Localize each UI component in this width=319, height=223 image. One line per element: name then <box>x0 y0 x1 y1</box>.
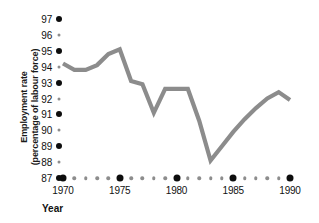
y-tick-dot <box>58 161 61 164</box>
x-tick-label: 1980 <box>166 185 187 196</box>
x-tick-dot <box>266 176 270 180</box>
y-tick-dot <box>56 143 62 149</box>
x-tick-label: 1975 <box>109 185 130 196</box>
x-tick-dot <box>129 176 133 180</box>
y-tick-dot <box>58 65 61 68</box>
x-axis-title: Year <box>42 203 63 214</box>
y-tick-label: 95 <box>32 45 52 56</box>
y-tick-dot <box>58 97 61 100</box>
x-tick-dot <box>173 175 180 182</box>
y-tick-label: 93 <box>32 77 52 88</box>
y-axis-title: Employment rate (percentage of labour fo… <box>0 0 30 223</box>
y-tick-label: 87 <box>32 173 52 184</box>
y-tick-label: 88 <box>32 157 52 168</box>
x-tick-dot <box>60 175 67 182</box>
y-tick-dot <box>56 48 62 54</box>
x-tick-dot <box>95 176 99 180</box>
x-tick-label: 1970 <box>52 185 73 196</box>
x-tick-dot <box>107 176 111 180</box>
x-tick-dot <box>152 176 156 180</box>
y-tick-label: 90 <box>32 125 52 136</box>
y-tick-label: 96 <box>32 29 52 40</box>
y-tick-dot <box>56 111 62 117</box>
y-tick-label: 89 <box>32 141 52 152</box>
x-tick-label: 1985 <box>223 185 244 196</box>
x-tick-dot <box>277 176 281 180</box>
y-tick-label: 92 <box>32 93 52 104</box>
y-tick-label: 97 <box>32 14 52 25</box>
y-axis-title-line1: Employment rate <box>19 15 30 199</box>
y-tick-label: 91 <box>32 109 52 120</box>
y-tick-dot <box>58 129 61 132</box>
x-tick-dot <box>163 176 167 180</box>
x-tick-dot <box>220 176 224 180</box>
employment-rate-series <box>63 49 290 160</box>
y-tick-dot <box>56 16 62 22</box>
x-tick-dot <box>197 176 201 180</box>
x-tick-dot <box>254 176 258 180</box>
y-tick-dot <box>58 33 61 36</box>
x-tick-dot <box>209 176 213 180</box>
x-tick-dot <box>243 176 247 180</box>
x-tick-dot <box>116 175 123 182</box>
employment-rate-line-chart: Employment rate (percentage of labour fo… <box>0 0 319 223</box>
y-tick-dot <box>56 80 62 86</box>
y-axis-title-line2: (percentage of labour force) <box>30 15 41 199</box>
y-tick-label: 94 <box>32 61 52 72</box>
x-tick-dot <box>141 176 145 180</box>
x-tick-dot <box>84 176 88 180</box>
x-tick-dot <box>287 175 294 182</box>
x-tick-dot <box>230 175 237 182</box>
x-tick-dot <box>186 176 190 180</box>
x-tick-dot <box>73 176 77 180</box>
x-tick-label: 1990 <box>279 185 300 196</box>
